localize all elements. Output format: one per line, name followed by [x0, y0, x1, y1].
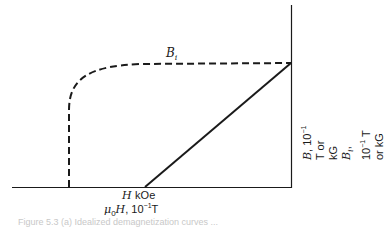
- y-axis-labels: B, 10−1 T or kG Bi, 10−1 T or kG: [298, 124, 386, 160]
- normal-b-line: [145, 63, 291, 187]
- b-unit-base: , 10: [301, 134, 313, 152]
- b-unit-suffix: T or kG: [314, 141, 339, 160]
- bi-symbol: B: [166, 46, 175, 60]
- b-symbol: B: [301, 152, 314, 160]
- h-unit: kOe: [135, 189, 155, 201]
- mu0h-unit-exp: −1: [144, 202, 152, 209]
- x-axis-label-mu0h: μ0H, 10−1T: [104, 202, 158, 218]
- bi-axis-subscript: i: [346, 149, 355, 152]
- b-unit-exp: −1: [300, 126, 307, 134]
- bi-curve-label: Bi: [166, 47, 177, 62]
- y-axis-label-b: B, 10−1 T or kG: [298, 124, 340, 160]
- bi-axis-symbol: B: [340, 152, 353, 160]
- mu0h-symbol: H: [116, 203, 126, 216]
- mu0h-unit-base: , 10: [125, 203, 143, 215]
- h-symbol: H: [122, 189, 132, 202]
- y-axis-label-bi: Bi, 10−1 T or kG: [340, 124, 386, 160]
- bi-unit-exp: −1: [359, 140, 366, 148]
- figure-caption: Figure 5.3 (a) Idealized demagnetization…: [18, 218, 218, 227]
- x-axis-label-h: H kOe: [122, 190, 155, 201]
- intrinsic-bi-curve: [69, 63, 291, 187]
- mu0h-unit-suffix: T: [152, 203, 159, 215]
- bi-subscript: i: [175, 53, 178, 62]
